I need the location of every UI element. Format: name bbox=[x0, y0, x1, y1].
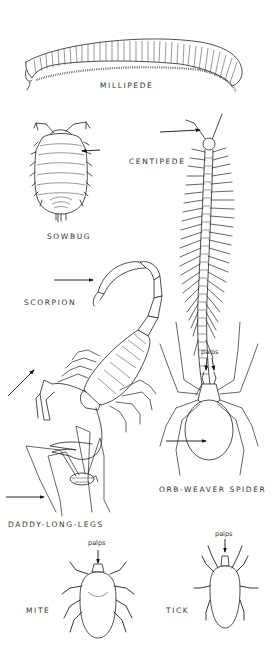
daddy-long-legs-drawing bbox=[6, 426, 110, 516]
annotation-palps-mite: palps bbox=[88, 539, 105, 547]
label-sowbug: SOWBUG bbox=[47, 232, 91, 241]
label-millipede: MILLIPEDE bbox=[100, 81, 153, 90]
mite-drawing bbox=[62, 550, 134, 638]
arthropod-illustration: MILLIPEDE SOWBUG CENTIPEDE SCORPION ORB-… bbox=[0, 0, 276, 648]
annotation-palps-tick: palps bbox=[215, 530, 232, 538]
sowbug-drawing bbox=[30, 122, 100, 222]
label-daddy-long-legs: DADDY-LONG-LEGS bbox=[8, 520, 104, 529]
orb-weaver-drawing bbox=[160, 322, 258, 475]
label-centipede: CENTIPEDE bbox=[129, 157, 186, 166]
drawing-layer bbox=[0, 0, 276, 648]
label-scorpion: SCORPION bbox=[24, 298, 76, 307]
tick-drawing bbox=[194, 539, 258, 628]
label-orb-weaver-spider: ORB-WEAVER SPIDER bbox=[159, 485, 266, 494]
annotation-palps-spider: palps bbox=[201, 348, 218, 356]
label-tick: TICK bbox=[166, 606, 189, 615]
label-mite: MITE bbox=[26, 606, 50, 615]
